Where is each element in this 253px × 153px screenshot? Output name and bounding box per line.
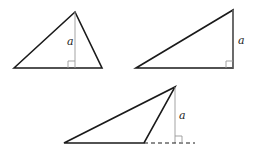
triangles-diagram: a a a [0,0,253,153]
obtuse-triangle: a [64,87,195,143]
altitude-label: a [238,34,245,47]
altitude-label: a [67,35,74,48]
acute-triangle: a [14,12,102,68]
right-angle-marker [68,61,75,68]
right-angle-marker [226,61,233,68]
altitude-label: a [179,109,186,122]
right-angle-marker [175,136,182,143]
right-triangle: a [136,10,245,68]
